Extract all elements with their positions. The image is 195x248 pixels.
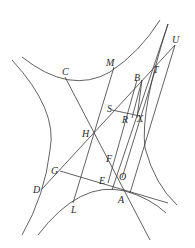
label-G: G <box>51 165 58 176</box>
geometry-figure: C M B T U S R X H F E O A G D L <box>0 0 195 248</box>
left-hyperbola-branch <box>12 60 51 235</box>
label-R: R <box>121 114 128 125</box>
line-upper-parallel <box>112 24 168 190</box>
label-B: B <box>134 72 140 83</box>
label-A: A <box>117 194 125 205</box>
label-F: F <box>105 153 113 164</box>
label-H: H <box>81 128 90 139</box>
label-L: L <box>70 204 77 215</box>
line-G-A-tangent <box>60 171 168 203</box>
label-S: S <box>107 103 112 114</box>
diagram-canvas: C M B T U S R X H F E O A G D L <box>0 0 195 248</box>
label-U: U <box>172 34 180 45</box>
line-E-R <box>108 80 137 183</box>
label-O: O <box>119 171 126 182</box>
label-X: X <box>136 113 144 124</box>
label-D: D <box>32 184 41 195</box>
right-hyperbola-branch <box>144 24 177 205</box>
bottom-hyperbola-branch <box>38 189 166 235</box>
label-C: C <box>62 66 69 77</box>
label-M: M <box>105 57 115 68</box>
label-T: T <box>153 64 160 75</box>
label-E: E <box>98 175 105 186</box>
